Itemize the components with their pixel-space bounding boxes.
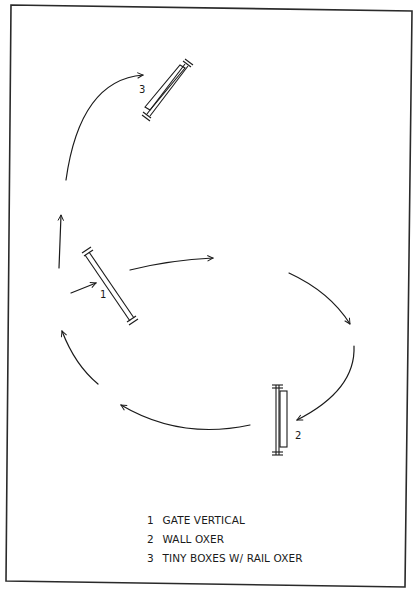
path-arrow-after-1: [130, 258, 213, 270]
jump-2-label: 2: [295, 430, 301, 441]
legend: 1 GATE VERTICAL 2 WALL OXER 3 TINY BOXES…: [147, 511, 303, 568]
legend-label: WALL OXER: [162, 533, 224, 545]
jump-3-label: 3: [139, 84, 145, 95]
course-diagram: [0, 0, 415, 594]
legend-number: 2: [147, 530, 159, 549]
arena-border: [6, 5, 412, 587]
legend-item-1: 1 GATE VERTICAL: [147, 511, 303, 530]
path-arrow-left-arc: [62, 331, 98, 384]
path-arrow-left-up: [59, 215, 61, 268]
legend-label: GATE VERTICAL: [162, 514, 244, 526]
path-arrow-bottom-arc: [121, 405, 250, 430]
legend-item-3: 3 TINY BOXES W/ RAIL OXER: [147, 549, 303, 568]
path-arrow-approach-3: [66, 75, 143, 180]
jump-2-wall-oxer: [272, 385, 287, 455]
jump-1-label: 1: [100, 289, 106, 300]
path-arrow-approach-1: [71, 283, 96, 293]
jump-1-gate-vertical: [82, 247, 138, 325]
legend-label: TINY BOXES W/ RAIL OXER: [162, 552, 302, 564]
legend-number: 3: [147, 549, 159, 568]
legend-number: 1: [147, 511, 159, 530]
legend-item-2: 2 WALL OXER: [147, 530, 303, 549]
jump-3-tiny-boxes-rail-oxer: [142, 59, 193, 121]
path-arrow-approach-2: [297, 346, 354, 420]
path-arrow-right-turn: [289, 273, 350, 324]
